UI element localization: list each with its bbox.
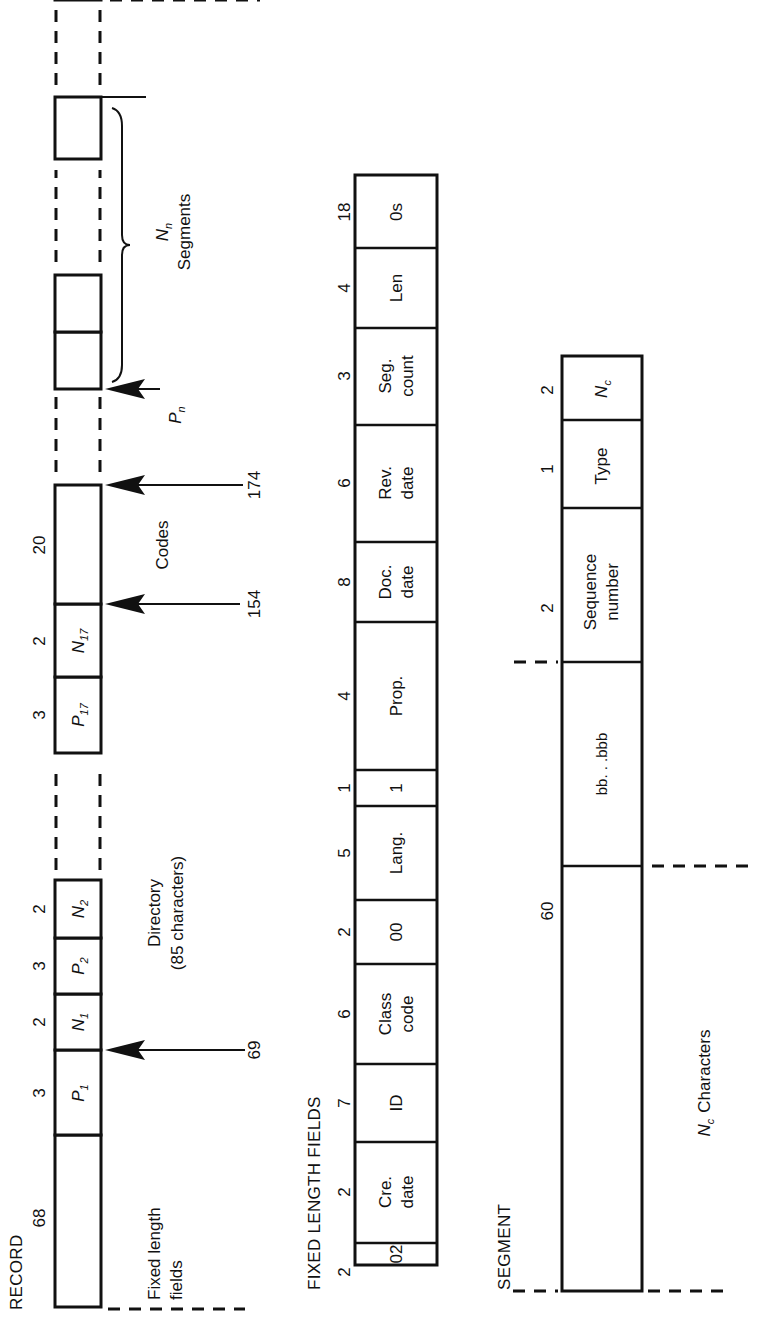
fixed-fields-widths: 2 2 7 6 2 5 1 4 8 6 3 4 18 (335, 203, 354, 1277)
svg-text:3: 3 (335, 371, 354, 380)
svg-text:8: 8 (335, 577, 354, 586)
field-0s: 0s (387, 203, 406, 221)
pointer-pn-label: Pn (166, 406, 187, 423)
record-annotations: Fixed length fields Directory (85 charac… (145, 194, 264, 1300)
record-last-segment-box (55, 97, 101, 159)
field-cre-date: Cre. (376, 1176, 395, 1208)
svg-text:date: date (398, 1175, 417, 1208)
arrow-label-69: 69 (245, 1041, 264, 1060)
record-diagram (55, 0, 260, 1309)
fixed-length-label-2: fields (167, 1260, 186, 1300)
svg-text:60: 60 (538, 902, 557, 921)
record-width-n1: 2 (30, 1017, 49, 1026)
svg-text:4: 4 (335, 691, 354, 700)
segments-count-label: Nn (153, 223, 174, 241)
arrow-69 (105, 1040, 245, 1060)
record-width-p2: 3 (30, 961, 49, 970)
field-sequence-number: Sequence (581, 554, 600, 631)
record-layout-diagram: RECORD 68 3 2 3 2 3 2 20 P1 N1 P2 N2 P17… (0, 0, 771, 1332)
svg-text:date: date (398, 565, 417, 598)
svg-text:5: 5 (335, 848, 354, 857)
svg-text:RECORD: RECORD (7, 1235, 26, 1310)
segment-widths: 60 2 1 2 (538, 385, 557, 920)
segments-word-label: Segments (175, 194, 194, 271)
codes-label: Codes (153, 520, 172, 569)
fixed-length-label: Fixed length (145, 1207, 164, 1300)
svg-text:7: 7 (335, 1098, 354, 1107)
svg-text:4: 4 (335, 283, 354, 292)
field-type: Type (592, 448, 611, 485)
field-rev-date: Rev. (376, 466, 395, 500)
field-prop: Prop. (387, 676, 406, 717)
field-blanks: bb. . .bbb (593, 733, 610, 796)
record-width-p17: 3 (30, 710, 49, 719)
field-doc-date: Doc. (376, 565, 395, 600)
record-fixed-fields-box (55, 1135, 101, 1307)
record-segment-box-2 (55, 275, 101, 332)
record-width-labels: 68 3 2 3 2 3 2 20 (30, 536, 49, 1228)
record-width-codes: 20 (30, 536, 49, 555)
svg-text:2: 2 (335, 1187, 354, 1196)
svg-text:6: 6 (335, 478, 354, 487)
svg-text:date: date (398, 466, 417, 499)
fixed-fields-title: FIXED LENGTH FIELDS (305, 1096, 324, 1290)
field-00: 00 (387, 923, 406, 942)
segment-title: SEGMENT (495, 1204, 514, 1290)
svg-text:2: 2 (538, 385, 557, 394)
svg-text:2: 2 (335, 927, 354, 936)
segment-outline (562, 356, 642, 1291)
arrow-154 (105, 594, 240, 614)
record-width-68: 68 (30, 1209, 49, 1228)
segments-brace (112, 108, 130, 382)
svg-text:2: 2 (538, 603, 557, 612)
svg-text:code: code (398, 996, 417, 1033)
field-lang: Lang. (387, 832, 406, 875)
svg-text:count: count (398, 355, 417, 397)
record-width-p1: 3 (30, 1088, 49, 1097)
arrow-174 (105, 475, 243, 495)
record-title: RECORD (7, 1235, 26, 1310)
svg-text:1: 1 (538, 464, 557, 473)
record-width-n17: 2 (30, 636, 49, 645)
svg-text:2: 2 (335, 1267, 354, 1276)
record-codes-box (55, 485, 101, 604)
svg-text:18: 18 (335, 203, 354, 222)
svg-text:number: number (603, 563, 622, 621)
arrow-label-154: 154 (245, 590, 264, 618)
svg-text:6: 6 (335, 1009, 354, 1018)
directory-count-label: (85 characters) (168, 856, 187, 970)
svg-text:1: 1 (335, 783, 354, 792)
field-seg-count: Seg. (376, 359, 395, 394)
field-02: 02 (387, 1245, 406, 1264)
field-1: 1 (387, 783, 406, 792)
arrow-label-174: 174 (245, 471, 264, 499)
field-class-code: Class (376, 993, 395, 1036)
field-id: ID (387, 1095, 406, 1112)
segment-diagram (513, 356, 752, 1291)
directory-label: Directory (145, 878, 164, 947)
field-len: Len (387, 274, 406, 302)
record-width-n2: 2 (30, 904, 49, 913)
record-segment-box-1 (55, 332, 101, 389)
nc-characters-label: NcCharacters (695, 1030, 716, 1137)
